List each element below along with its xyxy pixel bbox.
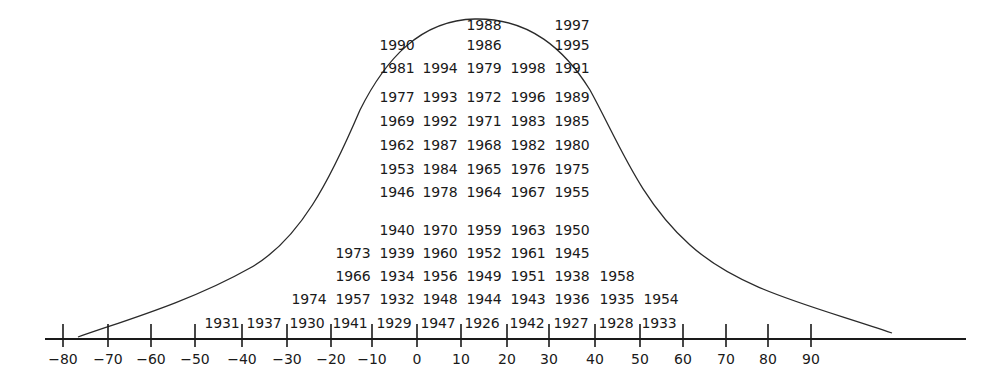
year-label: 1947 [421, 315, 456, 331]
year-label: 1996 [511, 89, 546, 105]
year-label: 1979 [467, 60, 502, 76]
year-label: 1931 [205, 315, 240, 331]
year-label: 1981 [380, 60, 415, 76]
year-label: 1977 [380, 89, 415, 105]
x-tick-label: 60 [674, 351, 692, 367]
year-label: 1967 [511, 184, 546, 200]
year-label: 1968 [467, 137, 502, 153]
year-label: 1936 [555, 291, 590, 307]
year-label: 1987 [423, 137, 458, 153]
x-tick-label: −30 [272, 351, 302, 367]
x-tick-label: 80 [759, 351, 777, 367]
x-tick-label: −50 [180, 351, 210, 367]
year-label: 1934 [380, 268, 415, 284]
year-label: 1973 [336, 245, 371, 261]
year-label: 1962 [380, 137, 415, 153]
year-label: 1966 [336, 268, 371, 284]
year-label: 1961 [511, 245, 546, 261]
year-label: 1957 [336, 291, 371, 307]
x-tick-label: −40 [227, 351, 257, 367]
year-label: 1984 [423, 161, 458, 177]
year-label: 1940 [380, 222, 415, 238]
year-histogram-chart: −80−70−60−50−40−30−20−100102030405060708… [0, 0, 1003, 386]
x-tick-label: 0 [413, 351, 422, 367]
x-tick-label: 10 [452, 351, 470, 367]
year-label: 1932 [380, 291, 415, 307]
year-label: 1998 [511, 60, 546, 76]
year-label: 1943 [511, 291, 546, 307]
x-tick-label: 70 [717, 351, 735, 367]
year-label: 1951 [511, 268, 546, 284]
year-label: 1972 [467, 89, 502, 105]
year-label: 1964 [467, 184, 502, 200]
year-label: 1963 [511, 222, 546, 238]
year-label: 1983 [511, 113, 546, 129]
x-tick-label: −80 [48, 351, 78, 367]
year-label: 1969 [380, 113, 415, 129]
year-label: 1945 [555, 245, 590, 261]
year-label: 1995 [555, 37, 590, 53]
year-label: 1949 [467, 268, 502, 284]
year-label: 1982 [511, 137, 546, 153]
year-label: 1952 [467, 245, 502, 261]
year-label: 1986 [467, 37, 502, 53]
year-label: 1954 [644, 291, 679, 307]
x-tick-label: −70 [93, 351, 123, 367]
year-label: 1928 [599, 315, 634, 331]
year-label: 1970 [423, 222, 458, 238]
x-tick-label: −60 [136, 351, 166, 367]
year-label: 1990 [380, 37, 415, 53]
year-label: 1955 [555, 184, 590, 200]
year-label: 1974 [292, 291, 327, 307]
year-label: 1965 [467, 161, 502, 177]
year-label: 1991 [555, 60, 590, 76]
year-label: 1935 [600, 291, 635, 307]
year-label: 1938 [555, 268, 590, 284]
year-label: 1944 [467, 291, 502, 307]
year-label: 1941 [333, 315, 368, 331]
year-label: 1989 [555, 89, 590, 105]
year-label: 1978 [423, 184, 458, 200]
year-label: 1953 [380, 161, 415, 177]
year-label: 1930 [290, 315, 325, 331]
x-tick-label: 90 [802, 351, 820, 367]
year-label: 1988 [467, 17, 502, 33]
year-label: 1994 [423, 60, 458, 76]
year-label: 1960 [423, 245, 458, 261]
year-label: 1997 [555, 17, 590, 33]
year-label: 1933 [642, 315, 677, 331]
year-label: 1985 [555, 113, 590, 129]
year-label: 1929 [377, 315, 412, 331]
x-tick-label: 30 [540, 351, 558, 367]
year-label: 1937 [247, 315, 282, 331]
year-label: 1971 [467, 113, 502, 129]
year-label: 1926 [465, 315, 500, 331]
year-label: 1958 [600, 268, 635, 284]
year-label: 1948 [423, 291, 458, 307]
year-label: 1956 [423, 268, 458, 284]
year-label: 1939 [380, 245, 415, 261]
x-tick-label: −10 [357, 351, 387, 367]
year-label: 1927 [554, 315, 589, 331]
x-tick-label: 50 [631, 351, 649, 367]
x-tick-label: −20 [316, 351, 346, 367]
year-label: 1980 [555, 137, 590, 153]
year-label: 1959 [467, 222, 502, 238]
year-label: 1950 [555, 222, 590, 238]
x-tick-label: 20 [498, 351, 516, 367]
x-tick-label: 40 [586, 351, 604, 367]
year-label: 1976 [511, 161, 546, 177]
year-label: 1993 [423, 89, 458, 105]
year-label: 1975 [555, 161, 590, 177]
year-label: 1992 [423, 113, 458, 129]
year-label: 1942 [510, 315, 545, 331]
year-label: 1946 [380, 184, 415, 200]
